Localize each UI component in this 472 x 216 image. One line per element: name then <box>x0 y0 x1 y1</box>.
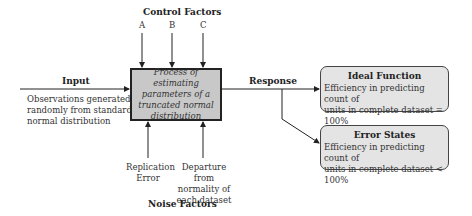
ideal-function-title: Ideal Function <box>324 70 445 83</box>
control-factor-a: A <box>139 20 145 31</box>
error-states-box: Error States Efficiency in predicting co… <box>320 125 449 170</box>
response-label: Response <box>249 76 297 86</box>
input-description: Observations generated randomly from sta… <box>27 94 132 127</box>
input-label: Input <box>62 76 90 86</box>
process-box: Process of estimating parameters of a tr… <box>130 68 222 121</box>
control-factors-title: Control Factors <box>143 7 221 17</box>
control-factor-b: B <box>169 20 175 31</box>
noise-factor-replication: Replication Error <box>126 162 170 184</box>
noise-factors-title: Noise Factors <box>148 199 217 209</box>
control-factor-c: C <box>200 20 207 31</box>
ideal-function-box: Ideal Function Efficiency in predicting … <box>320 66 449 112</box>
error-states-title: Error States <box>324 129 445 142</box>
